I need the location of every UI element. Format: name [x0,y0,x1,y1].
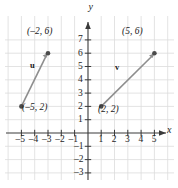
y-tick-label--3: –3 [74,168,84,178]
point-u-head [46,51,51,56]
x-tick-label--2: –2 [55,135,65,145]
vector-label-v: v [115,63,119,72]
grid-lines [5,16,174,180]
y-tick-label-5: 5 [78,62,83,72]
x-tick-label-4: 4 [138,135,143,145]
y-tick-label--1: –1 [74,142,84,152]
y-axis-label: y [89,2,93,12]
vector-graph-figure: y x –5 –4 –3 –2 –1 1 2 3 4 5 7 6 5 4 3 2… [0,0,178,188]
point-label-v-tail: (2, 2) [98,105,119,115]
x-tick-label--3: –3 [42,135,52,145]
x-tick-label--4: –4 [29,135,39,145]
x-tick-label--5: –5 [15,135,25,145]
x-tick-label-5: 5 [152,135,157,145]
y-tick-label-6: 6 [78,49,83,59]
point-label-u-tail: (–5, 2) [22,103,47,113]
x-tick-label-2: 2 [112,135,117,145]
y-tick-label-7: 7 [78,35,83,45]
x-axis-arrowhead [159,130,166,136]
y-tick-label-3: 3 [78,89,83,99]
point-label-v-head: (5, 6) [122,27,143,37]
y-tick-label-1: 1 [78,115,83,125]
vector-label-u: u [30,61,35,70]
point-v-head [152,51,157,56]
point-label-u-head: (–2, 6) [27,27,52,37]
y-tick-label-2: 2 [78,102,83,112]
x-tick-label-3: 3 [125,135,130,145]
y-tick-label--2: –2 [74,155,84,165]
y-tick-label-4: 4 [78,75,83,85]
x-axis-label: x [167,125,171,135]
x-tick-label-1: 1 [99,135,104,145]
y-axis-arrowhead [85,22,91,29]
